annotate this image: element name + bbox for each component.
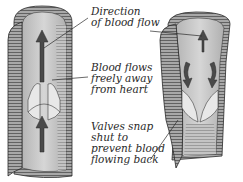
label-blood-flows-freely: Blood flows freely away from heart bbox=[91, 62, 152, 95]
label-valves-snap-shut: Valves snap shut to prevent blood flowin… bbox=[91, 121, 165, 165]
vein-valve-diagram: Direction of blood flow Blood flows free… bbox=[0, 0, 243, 182]
label-direction-of-blood-flow: Direction of blood flow bbox=[91, 6, 160, 28]
left-vein bbox=[8, 6, 72, 178]
